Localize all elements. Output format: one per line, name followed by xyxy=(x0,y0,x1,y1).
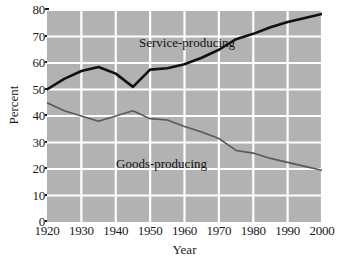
y-tick-label: 60 xyxy=(19,56,45,69)
y-tick: 70 xyxy=(9,30,45,43)
y-tick: 80 xyxy=(9,3,45,16)
y-tick-label: 50 xyxy=(19,83,45,96)
y-tick-label: 30 xyxy=(19,136,45,149)
y-tick-label: 40 xyxy=(19,109,45,122)
y-tick-label: 80 xyxy=(19,3,45,16)
line-chart: 01020304050607080 1920193019401950196019… xyxy=(0,0,339,264)
x-axis-title: Year xyxy=(47,243,322,257)
y-axis-title: Percent xyxy=(7,70,21,140)
y-tick-label: 20 xyxy=(19,162,45,175)
x-axis-ticks: 192019301940195019601970198019902000 xyxy=(47,224,322,240)
series-label-service-producing: Service-producing xyxy=(139,36,235,50)
series-label-goods-producing: Goods-producing xyxy=(116,157,207,171)
y-tick: 10 xyxy=(9,189,45,202)
y-tick: 20 xyxy=(9,162,45,175)
x-tick-label: 2000 xyxy=(302,224,339,238)
y-tick: 60 xyxy=(9,56,45,69)
y-tick-label: 70 xyxy=(19,30,45,43)
y-tick-label: 10 xyxy=(19,189,45,202)
